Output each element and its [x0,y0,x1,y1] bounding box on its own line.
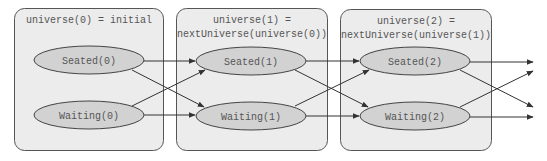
node-waiting-1-label: Waiting(1) [221,112,281,123]
node-seated-1-label: Seated(1) [224,57,278,68]
generation-2-header-line1: universe(2) = [377,16,455,27]
node-seated-0-label: Seated(0) [62,56,116,67]
generation-0-header: universe(0) = initial [26,15,152,26]
node-seated-0: Seated(0) [34,46,144,74]
node-waiting-2: Waiting(2) [360,102,470,130]
universe-diagram: universe(0) = initial universe(1) = next… [0,0,547,161]
node-seated-2-label: Seated(2) [388,57,442,68]
node-waiting-0-label: Waiting(0) [59,111,119,122]
generation-2-header-line2: nextUniverse(universe(1)) [341,30,491,41]
node-seated-1: Seated(1) [196,47,306,75]
node-waiting-0: Waiting(0) [34,101,144,129]
node-waiting-2-label: Waiting(2) [385,112,445,123]
generation-1-header-line1: universe(1) = [213,15,291,26]
generation-1-header-line2: nextUniverse(universe(0)) [177,29,327,40]
node-waiting-1: Waiting(1) [196,102,306,130]
node-seated-2: Seated(2) [360,47,470,75]
